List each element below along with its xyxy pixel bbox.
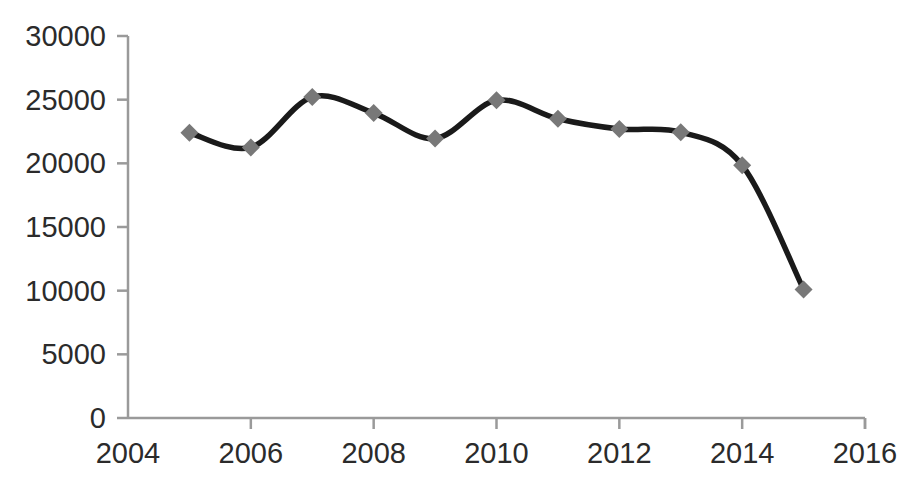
data-point-marker bbox=[488, 91, 506, 109]
chart-canvas: 050001000015000200002500030000 200420062… bbox=[0, 0, 912, 494]
x-axis-tick-labels: 2004200620082010201220142016 bbox=[96, 437, 898, 469]
y-axis-tick-label: 15000 bbox=[25, 211, 106, 243]
x-axis-tick-label: 2016 bbox=[833, 437, 898, 469]
data-point-marker bbox=[672, 123, 690, 141]
x-axis-tick-label: 2012 bbox=[587, 437, 652, 469]
x-axis-tick-label: 2008 bbox=[341, 437, 406, 469]
y-axis-tick-label: 5000 bbox=[41, 338, 106, 370]
line-chart: 050001000015000200002500030000 200420062… bbox=[0, 0, 912, 494]
series-line bbox=[189, 96, 803, 290]
y-axis-tick-label: 20000 bbox=[25, 147, 106, 179]
axis-lines bbox=[117, 36, 865, 429]
x-axis-tick-label: 2010 bbox=[464, 437, 529, 469]
data-point-marker bbox=[242, 138, 260, 156]
data-point-marker bbox=[426, 130, 444, 148]
y-axis-tick-label: 30000 bbox=[25, 20, 106, 52]
data-series-layer bbox=[180, 88, 812, 298]
y-axis-tick-labels: 050001000015000200002500030000 bbox=[25, 20, 106, 434]
data-point-marker bbox=[303, 88, 321, 106]
data-point-marker bbox=[180, 124, 198, 142]
data-point-marker bbox=[795, 280, 813, 298]
x-axis-tick-label: 2004 bbox=[96, 437, 161, 469]
y-axis-tick-label: 0 bbox=[90, 402, 106, 434]
y-axis-tick-label: 10000 bbox=[25, 275, 106, 307]
data-point-marker bbox=[610, 120, 628, 138]
x-axis-tick-label: 2006 bbox=[219, 437, 284, 469]
data-point-marker bbox=[365, 104, 383, 122]
x-axis-tick-label: 2014 bbox=[710, 437, 775, 469]
y-axis-tick-label: 25000 bbox=[25, 84, 106, 116]
data-point-marker bbox=[549, 110, 567, 128]
